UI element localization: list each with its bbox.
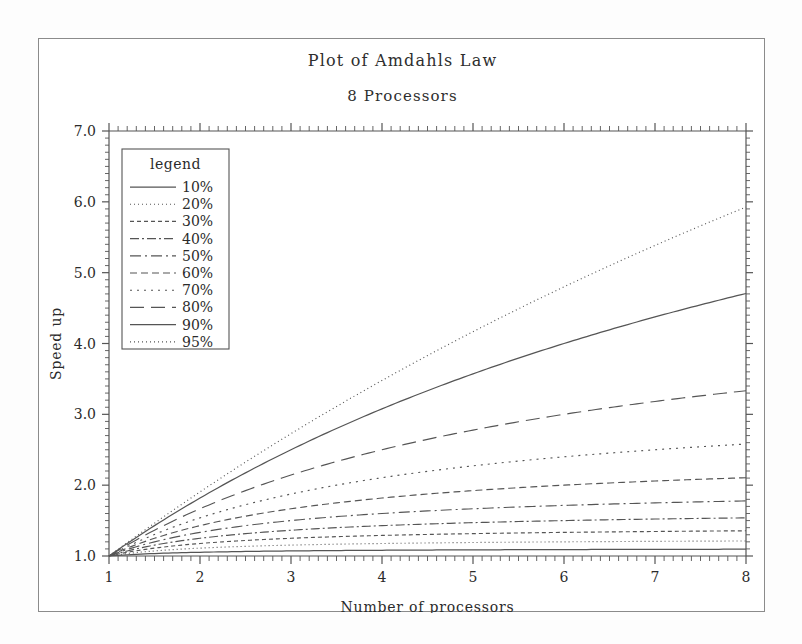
series-line-70pct bbox=[109, 444, 746, 556]
chart-legend[interactable]: legend10%20%30%40%50%60%70%80%90%95% bbox=[122, 149, 229, 350]
chart-plot-area: 1.02.03.04.05.06.07.012345678Number of p… bbox=[39, 39, 766, 613]
series-line-10pct bbox=[109, 549, 746, 556]
series-line-50pct bbox=[109, 501, 746, 556]
y-tick-label: 4.0 bbox=[74, 336, 96, 352]
legend-label-20pct[interactable]: 20% bbox=[182, 196, 213, 212]
x-tick-label: 8 bbox=[742, 569, 751, 585]
y-tick-label: 2.0 bbox=[74, 477, 96, 493]
series-line-20pct bbox=[109, 541, 746, 556]
legend-label-40pct[interactable]: 40% bbox=[182, 231, 213, 247]
x-tick-label: 1 bbox=[105, 569, 114, 585]
y-axis-label: Speed up bbox=[48, 307, 64, 380]
page-canvas: Plot of Amdahls Law 8 Processors 1.02.03… bbox=[0, 0, 802, 644]
x-axis-label: Number of processors bbox=[341, 599, 515, 613]
legend-label-60pct[interactable]: 60% bbox=[182, 265, 213, 281]
x-tick-label: 5 bbox=[469, 569, 478, 585]
y-tick-label: 6.0 bbox=[74, 194, 96, 210]
y-tick-label: 1.0 bbox=[74, 548, 96, 564]
x-tick-label: 2 bbox=[196, 569, 205, 585]
legend-title: legend bbox=[150, 156, 201, 172]
legend-label-70pct[interactable]: 70% bbox=[182, 282, 213, 298]
y-tick-label: 7.0 bbox=[74, 123, 96, 139]
x-tick-label: 4 bbox=[378, 569, 387, 585]
legend-label-10pct[interactable]: 10% bbox=[182, 179, 213, 195]
x-tick-label: 6 bbox=[560, 569, 569, 585]
x-tick-label: 3 bbox=[287, 569, 296, 585]
legend-label-30pct[interactable]: 30% bbox=[182, 213, 213, 229]
y-tick-label: 5.0 bbox=[74, 265, 96, 281]
legend-label-50pct[interactable]: 50% bbox=[182, 248, 213, 264]
y-tick-label: 3.0 bbox=[74, 406, 96, 422]
figure-frame: Plot of Amdahls Law 8 Processors 1.02.03… bbox=[38, 38, 765, 612]
legend-label-90pct[interactable]: 90% bbox=[182, 317, 213, 333]
legend-label-95pct[interactable]: 95% bbox=[182, 334, 213, 350]
legend-label-80pct[interactable]: 80% bbox=[182, 299, 213, 315]
x-tick-label: 7 bbox=[651, 569, 660, 585]
